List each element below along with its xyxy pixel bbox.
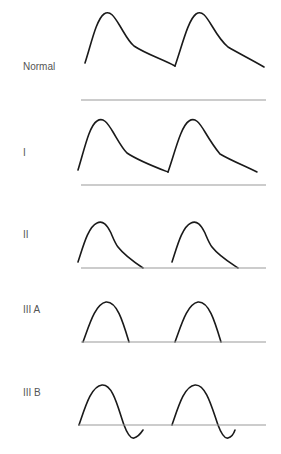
type-IIIB-wave-1 bbox=[79, 385, 143, 438]
label-II: II bbox=[23, 229, 29, 240]
normal-wave-1 bbox=[85, 13, 175, 66]
label-I: I bbox=[23, 147, 26, 158]
panel-IIIA: III A bbox=[23, 302, 266, 342]
type-II-wave-1 bbox=[78, 222, 143, 268]
type-II-wave-2 bbox=[172, 222, 238, 268]
type-I-wave-1 bbox=[78, 120, 168, 172]
panel-IIIB: III B bbox=[23, 385, 266, 438]
panel-I: I bbox=[23, 120, 266, 185]
panel-II: II bbox=[23, 222, 266, 268]
type-IIIB-wave-2 bbox=[172, 385, 235, 438]
label-IIIB: III B bbox=[23, 387, 41, 398]
label-IIIA: III A bbox=[23, 304, 41, 315]
type-I-wave-2 bbox=[168, 120, 257, 172]
panel-normal: Normal bbox=[23, 13, 266, 100]
label-normal: Normal bbox=[23, 61, 55, 72]
normal-wave-2 bbox=[175, 13, 264, 67]
waveform-diagram: Normal I II III A III B bbox=[0, 0, 281, 454]
type-IIIA-wave-1 bbox=[83, 302, 129, 342]
type-IIIA-wave-2 bbox=[175, 302, 221, 342]
